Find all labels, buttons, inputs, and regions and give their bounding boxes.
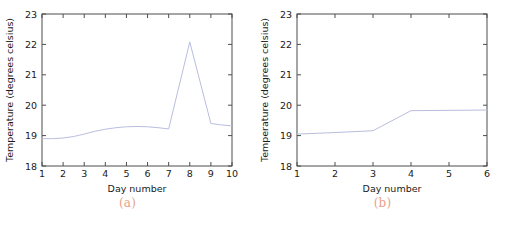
y-tick-label: 23: [25, 9, 37, 20]
plot-frame: [297, 14, 487, 166]
caption-b: (b): [255, 196, 510, 210]
x-axis-title: Day number: [108, 183, 167, 194]
plot-frame: [42, 14, 232, 166]
x-tick-label: 2: [60, 168, 66, 179]
x-tick-label: 6: [484, 168, 490, 179]
y-tick-label: 20: [280, 100, 292, 111]
y-axis-title: Temperature (degrees celsius): [4, 18, 15, 163]
data-series-line: [42, 42, 232, 139]
y-tick-label: 22: [25, 39, 37, 50]
chart-panel-b: 123456181920212223Day numberTemperature …: [255, 0, 510, 229]
x-tick-label: 4: [408, 168, 414, 179]
x-tick-label: 8: [187, 168, 193, 179]
chart-b-plot: 123456181920212223Day numberTemperature …: [255, 0, 510, 196]
x-axis-title: Day number: [363, 183, 422, 194]
x-tick-label: 3: [370, 168, 376, 179]
chart-a-plot: 12345678910181920212223Day numberTempera…: [0, 0, 255, 196]
y-axis-title: Temperature (degrees celsius): [259, 18, 270, 163]
x-tick-label: 1: [294, 168, 300, 179]
y-tick-label: 18: [280, 161, 292, 172]
x-tick-label: 1: [39, 168, 45, 179]
y-tick-label: 23: [280, 9, 292, 20]
x-tick-label: 5: [446, 168, 452, 179]
x-tick-label: 7: [166, 168, 172, 179]
y-tick-label: 19: [280, 130, 292, 141]
x-tick-label: 2: [332, 168, 338, 179]
x-tick-label: 10: [226, 168, 238, 179]
figure-row: 12345678910181920212223Day numberTempera…: [0, 0, 510, 229]
y-tick-label: 22: [280, 39, 292, 50]
data-series-line: [297, 110, 487, 134]
y-tick-label: 21: [25, 69, 37, 80]
x-tick-label: 6: [145, 168, 151, 179]
x-tick-label: 3: [81, 168, 87, 179]
x-tick-label: 9: [208, 168, 214, 179]
y-tick-label: 21: [280, 69, 292, 80]
y-tick-label: 19: [25, 130, 37, 141]
x-tick-label: 4: [102, 168, 108, 179]
chart-panel-a: 12345678910181920212223Day numberTempera…: [0, 0, 255, 229]
caption-a: (a): [0, 196, 255, 210]
x-tick-label: 5: [123, 168, 129, 179]
y-tick-label: 20: [25, 100, 37, 111]
y-tick-label: 18: [25, 161, 37, 172]
